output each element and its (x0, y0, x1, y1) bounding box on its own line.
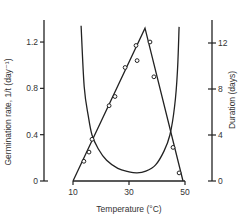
x-tick-label: 10 (68, 187, 78, 197)
data-point-marker (171, 146, 175, 150)
y2-tick-label: 4 (218, 130, 223, 140)
x-tick-label: 50 (180, 187, 190, 197)
y-tick-label: 0.4 (26, 130, 38, 140)
data-point-marker (152, 75, 156, 79)
data-point-marker (113, 95, 117, 99)
x-tick-label: 30 (124, 187, 134, 197)
data-point-marker (90, 137, 94, 141)
data-point-marker (148, 40, 152, 44)
left-y-axis-label: Germination rate, 1/t (day⁻¹) (3, 58, 13, 165)
y-tick-label: 0.8 (26, 83, 38, 93)
germination-chart: 103050 00.40.81.2 04812 Temperature (°C)… (0, 0, 250, 218)
right-y-axis-label: Duration (days) (227, 71, 237, 129)
data-point-marker (123, 66, 127, 70)
y2-tick-label: 8 (218, 84, 223, 94)
y-tick-label: 0 (33, 176, 38, 186)
data-point-marker (87, 150, 91, 154)
series-layer (73, 26, 183, 181)
left-y-axis-ticks: 00.40.81.2 (26, 37, 48, 186)
rate-fit-line (73, 28, 183, 181)
x-axis-label: Temperature (°C) (96, 204, 161, 214)
y-tick-label: 1.2 (26, 37, 38, 47)
data-point-marker (134, 44, 138, 48)
y2-tick-label: 12 (218, 38, 228, 48)
data-point-marker (177, 171, 181, 175)
data-point-marker (107, 104, 111, 108)
right-y-axis-ticks: 04812 (208, 38, 228, 186)
data-point-marker (82, 159, 86, 163)
duration-curve (81, 26, 179, 173)
y2-tick-label: 0 (218, 176, 223, 186)
x-axis-ticks: 103050 (68, 181, 190, 197)
data-point-marker (135, 59, 139, 63)
